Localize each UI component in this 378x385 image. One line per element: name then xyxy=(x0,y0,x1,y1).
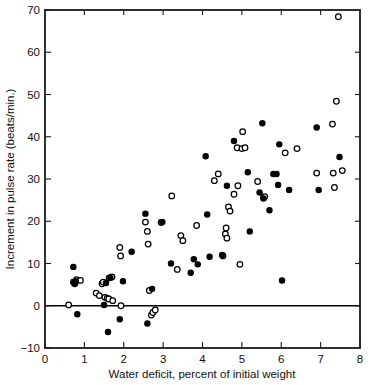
data-point-open xyxy=(242,145,248,151)
data-point-open xyxy=(215,171,221,177)
data-point-open xyxy=(118,303,124,309)
data-point-filled xyxy=(279,278,284,283)
data-point-filled xyxy=(261,196,266,201)
data-point-open xyxy=(180,238,186,244)
y-tick-label: 0 xyxy=(34,300,40,312)
chart-svg: −10010203040506070 012345678 Water defic… xyxy=(0,0,378,385)
data-point-filled xyxy=(203,154,208,159)
data-point-open xyxy=(212,178,218,184)
y-axis-tick-labels: −10010203040506070 xyxy=(20,4,40,354)
data-point-filled xyxy=(129,249,134,254)
data-point-open xyxy=(145,229,151,235)
data-point-filled xyxy=(231,138,236,143)
data-point-open xyxy=(118,253,124,259)
data-point-filled xyxy=(276,182,281,187)
data-point-filled xyxy=(168,261,173,266)
data-point-open xyxy=(240,129,246,135)
y-tick-label: 40 xyxy=(27,131,40,143)
scatter-chart-figure: −10010203040506070 012345678 Water defic… xyxy=(0,0,378,385)
data-point-open xyxy=(294,146,300,152)
y-tick-label: 50 xyxy=(27,89,40,101)
x-tick-label: 5 xyxy=(239,353,245,365)
data-point-filled xyxy=(224,183,229,188)
data-point-filled xyxy=(145,321,150,326)
data-point-filled xyxy=(75,312,80,317)
data-point-open xyxy=(235,183,241,189)
data-point-open xyxy=(330,121,336,127)
data-point-filled xyxy=(117,317,122,322)
y-tick-label: −10 xyxy=(20,342,40,354)
data-point-open xyxy=(339,168,345,174)
data-point-open xyxy=(66,302,72,308)
data-point-filled xyxy=(245,170,250,175)
data-point-filled xyxy=(274,171,279,176)
data-point-open xyxy=(117,245,123,251)
data-point-filled xyxy=(260,121,265,126)
series-open-circles xyxy=(66,14,345,318)
data-point-open xyxy=(224,235,230,241)
x-tick-label: 2 xyxy=(121,353,127,365)
data-point-open xyxy=(194,223,200,229)
data-point-filled xyxy=(73,279,78,284)
data-point-filled xyxy=(267,208,272,213)
y-tick-label: 70 xyxy=(27,4,40,16)
data-point-filled xyxy=(220,252,225,257)
data-point-open xyxy=(143,219,149,225)
data-point-open xyxy=(255,179,261,185)
x-tick-label: 6 xyxy=(278,353,284,365)
data-point-open xyxy=(231,191,237,197)
y-axis-title: Increment in pulse rate (beats/min.) xyxy=(4,88,16,269)
data-point-filled xyxy=(316,187,321,192)
data-point-open xyxy=(330,170,336,176)
x-tick-label: 3 xyxy=(160,353,166,365)
plot-frame xyxy=(45,10,360,348)
data-point-open xyxy=(145,241,151,247)
x-axis-ticks xyxy=(45,10,360,348)
data-point-open xyxy=(332,185,338,191)
data-point-open xyxy=(282,150,288,156)
y-tick-label: 30 xyxy=(27,173,40,185)
data-point-filled xyxy=(277,142,282,147)
data-point-filled xyxy=(205,212,210,217)
x-axis-tick-labels: 012345678 xyxy=(42,353,363,365)
x-tick-label: 7 xyxy=(317,353,323,365)
data-point-filled xyxy=(257,190,262,195)
data-point-open xyxy=(169,193,175,199)
data-point-filled xyxy=(337,154,342,159)
data-point-filled xyxy=(103,280,108,285)
data-points-layer xyxy=(66,14,345,335)
data-point-filled xyxy=(188,270,193,275)
data-point-filled xyxy=(101,302,106,307)
data-point-filled xyxy=(247,229,252,234)
data-point-open xyxy=(237,262,243,268)
data-point-open xyxy=(227,208,233,214)
data-point-open xyxy=(223,225,229,231)
data-point-open xyxy=(152,307,158,313)
data-point-filled xyxy=(287,187,292,192)
data-point-filled xyxy=(105,329,110,334)
data-point-filled xyxy=(207,254,212,259)
data-point-filled xyxy=(71,264,76,269)
y-tick-label: 20 xyxy=(27,215,40,227)
y-tick-label: 10 xyxy=(27,258,40,270)
y-tick-label: 60 xyxy=(27,46,40,58)
data-point-open xyxy=(334,98,340,104)
data-point-filled xyxy=(143,211,148,216)
data-point-open xyxy=(110,298,116,304)
data-point-filled xyxy=(160,219,165,224)
data-point-filled xyxy=(195,262,200,267)
x-tick-label: 8 xyxy=(357,353,363,365)
data-point-filled xyxy=(120,279,125,284)
data-point-filled xyxy=(314,125,319,130)
data-point-open xyxy=(314,170,320,176)
data-point-open xyxy=(336,14,342,20)
data-point-filled xyxy=(108,275,113,280)
x-tick-label: 1 xyxy=(81,353,87,365)
data-point-filled xyxy=(150,286,155,291)
x-axis-title: Water deficit, percent of initial weight xyxy=(109,368,297,380)
data-point-open xyxy=(175,267,181,273)
x-tick-label: 4 xyxy=(199,353,206,365)
y-axis-ticks xyxy=(45,10,360,348)
data-point-filled xyxy=(191,257,196,262)
x-tick-label: 0 xyxy=(42,353,48,365)
